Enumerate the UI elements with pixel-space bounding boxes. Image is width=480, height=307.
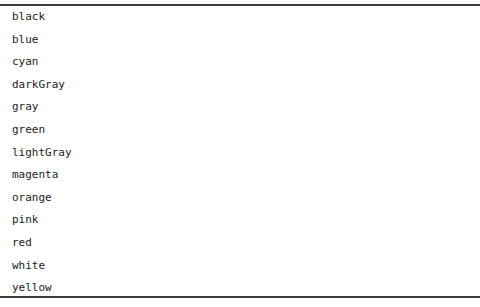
list-item-darkgray[interactable]: darkGray [0, 74, 480, 97]
color-list: black blue cyan darkGray gray green ligh… [0, 4, 480, 298]
list-item-green[interactable]: green [0, 119, 480, 142]
list-item-magenta[interactable]: magenta [0, 164, 480, 187]
list-item-gray[interactable]: gray [0, 96, 480, 119]
list-item-black[interactable]: black [0, 6, 480, 29]
list-item-red[interactable]: red [0, 232, 480, 255]
list-item-orange[interactable]: orange [0, 187, 480, 210]
list-item-white[interactable]: white [0, 255, 480, 278]
list-item-yellow[interactable]: yellow [0, 277, 480, 300]
list-item-cyan[interactable]: cyan [0, 51, 480, 74]
list-item-blue[interactable]: blue [0, 29, 480, 52]
list-item-pink[interactable]: pink [0, 209, 480, 232]
list-item-lightgray[interactable]: lightGray [0, 142, 480, 165]
